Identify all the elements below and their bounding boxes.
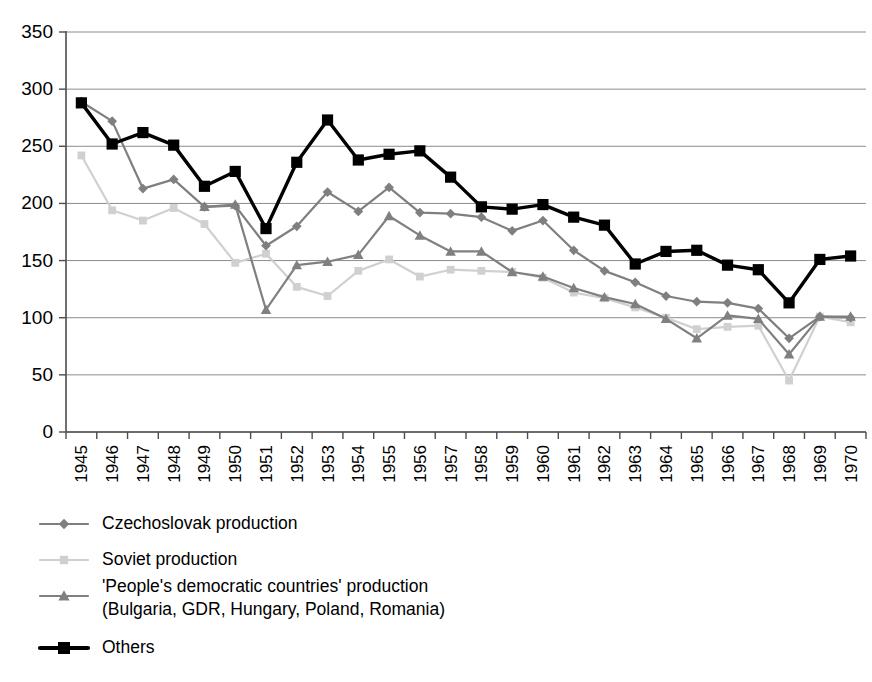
chart-page: 0501001502002503003501945194619471948194… <box>0 0 872 682</box>
y-axis-tick-label: 0 <box>42 421 53 442</box>
x-axis-tick-label: 1961 <box>565 445 584 483</box>
y-axis-tick-label: 300 <box>21 78 53 99</box>
data-point <box>324 292 332 300</box>
data-point <box>170 204 178 212</box>
legend-item-soviet[interactable]: Soviet production <box>40 549 237 569</box>
legend-label: Czechoslovak production <box>102 513 298 533</box>
x-axis-tick-label: 1964 <box>657 445 676 483</box>
legend-label: Soviet production <box>102 549 237 569</box>
legend-square-icon <box>60 556 68 564</box>
series-czechoslovak <box>77 97 856 343</box>
chart-legend: Czechoslovak productionSoviet production… <box>40 513 445 657</box>
data-point <box>138 184 148 194</box>
x-axis-tick-label: 1952 <box>288 445 307 483</box>
data-point <box>692 297 702 307</box>
x-axis-tick-label: 1962 <box>595 445 614 483</box>
data-point <box>722 260 733 271</box>
x-axis-tick-label: 1970 <box>842 445 861 483</box>
data-point <box>785 377 793 385</box>
data-point <box>322 114 333 125</box>
data-point <box>231 259 239 267</box>
legend-item-czechoslovak[interactable]: Czechoslovak production <box>40 513 298 533</box>
data-point <box>724 323 732 331</box>
x-axis-tick-label: 1955 <box>380 445 399 483</box>
data-point <box>568 212 579 223</box>
x-axis-tick-label: 1950 <box>226 445 245 483</box>
data-point <box>262 250 270 258</box>
data-point <box>630 277 640 287</box>
x-axis-tick-label: 1968 <box>780 445 799 483</box>
series-line-others <box>81 103 850 303</box>
data-point <box>845 250 856 261</box>
data-point <box>447 266 455 274</box>
data-point <box>137 127 148 138</box>
x-axis-tick-label: 1969 <box>811 445 830 483</box>
x-axis-tick-label: 1947 <box>134 445 153 483</box>
legend-label: 'People's democratic countries' producti… <box>102 576 428 596</box>
data-point <box>691 245 702 256</box>
data-point <box>753 264 764 275</box>
data-point <box>476 201 487 212</box>
data-point <box>199 181 210 192</box>
x-axis-tick-label: 1958 <box>472 445 491 483</box>
data-point <box>415 230 426 239</box>
x-axis-tick-label: 1967 <box>749 445 768 483</box>
data-point <box>260 223 271 234</box>
x-axis-tick-label: 1966 <box>719 445 738 483</box>
data-point <box>446 209 456 219</box>
data-point <box>201 220 209 228</box>
series-line-peoples <box>204 205 850 355</box>
data-point <box>783 297 794 308</box>
data-point <box>507 226 517 236</box>
data-point <box>630 258 641 269</box>
y-axis-tick-label: 100 <box>21 307 53 328</box>
x-axis-tick-label: 1951 <box>257 445 276 483</box>
line-chart: 0501001502002503003501945194619471948194… <box>0 0 872 682</box>
legend-diamond-icon <box>59 519 70 530</box>
data-point <box>383 149 394 160</box>
x-axis-tick-label: 1957 <box>442 445 461 483</box>
data-point <box>77 152 85 160</box>
data-point <box>385 256 393 264</box>
legend-label: Others <box>102 637 155 657</box>
x-axis-tick-label: 1954 <box>349 445 368 483</box>
data-point <box>814 254 825 265</box>
data-point <box>108 206 116 214</box>
data-point <box>693 325 701 333</box>
y-axis-tick-label: 50 <box>32 364 53 385</box>
data-point <box>661 291 671 301</box>
x-axis-tick-label: 1959 <box>503 445 522 483</box>
y-axis-tick-label: 350 <box>21 21 53 42</box>
data-point <box>293 283 301 291</box>
x-axis-tick-label: 1953 <box>319 445 338 483</box>
series-others <box>76 97 856 308</box>
data-point <box>107 138 118 149</box>
data-point <box>353 154 364 165</box>
x-axis-tick-label: 1946 <box>103 445 122 483</box>
data-point <box>723 298 733 308</box>
legend-label-second-line: (Bulgaria, GDR, Hungary, Poland, Romania… <box>102 599 445 619</box>
data-point <box>384 211 395 220</box>
legend-item-peoples[interactable]: 'People's democratic countries' producti… <box>40 576 445 619</box>
x-axis-tick-label: 1948 <box>165 445 184 483</box>
x-axis-tick-label: 1965 <box>688 445 707 483</box>
x-axis-tick-label: 1949 <box>195 445 214 483</box>
data-point <box>291 157 302 168</box>
data-point <box>414 145 425 156</box>
data-point <box>139 217 147 225</box>
data-point <box>354 267 362 275</box>
y-axis-tick-label: 250 <box>21 135 53 156</box>
y-axis-tick-label: 150 <box>21 250 53 271</box>
legend-item-others[interactable]: Others <box>40 637 155 657</box>
data-point <box>660 246 671 257</box>
data-point <box>416 273 424 281</box>
x-axis-tick-label: 1963 <box>626 445 645 483</box>
data-point <box>477 212 487 222</box>
x-axis-tick-label: 1945 <box>72 445 91 483</box>
data-point <box>230 166 241 177</box>
data-point <box>477 267 485 275</box>
data-point <box>168 140 179 151</box>
data-point <box>76 97 87 108</box>
x-axis-tick-label: 1956 <box>411 445 430 483</box>
legend-square-icon <box>58 642 70 654</box>
